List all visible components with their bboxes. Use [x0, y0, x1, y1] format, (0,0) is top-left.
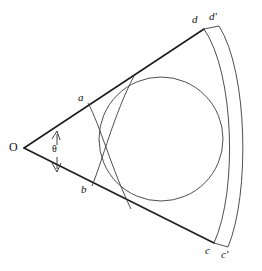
label-point-d: d	[192, 14, 198, 25]
inscribed-circle	[99, 77, 223, 201]
small-arc-from-b	[92, 76, 134, 186]
label-point-d-prime: d'	[209, 11, 217, 22]
segment-d-dprime	[204, 26, 219, 29]
segment-c-cprime	[214, 243, 228, 247]
label-point-a: a	[78, 92, 84, 103]
upper-ray-Od	[24, 29, 204, 148]
label-angle-theta: θ	[52, 144, 57, 154]
label-point-b: b	[81, 184, 87, 195]
label-point-c: c	[205, 245, 210, 256]
small-arc-from-a	[88, 103, 131, 209]
label-vertex-O: O	[9, 141, 18, 153]
geometry-diagram: O a b c c' d d' θ	[0, 0, 262, 271]
theta-arrowhead-up	[52, 131, 60, 140]
arc-d-to-c	[204, 29, 230, 243]
figure-canvas	[0, 0, 262, 271]
label-point-c-prime: c'	[221, 249, 228, 260]
